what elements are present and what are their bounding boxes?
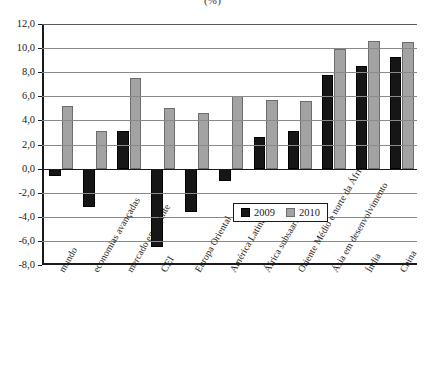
- bar-2010: [62, 106, 74, 169]
- y-axis-tick: [38, 241, 42, 242]
- gridline: [42, 145, 417, 146]
- y-axis-tick: [38, 193, 42, 194]
- chart-title: (%): [0, 0, 425, 6]
- legend-item-2010: 2010: [286, 207, 320, 218]
- x-axis-labels: mundoeconomias avançadasmercado emergent…: [42, 265, 417, 389]
- bar-2009: [254, 137, 266, 168]
- bar-2009: [117, 131, 129, 168]
- gridline: [42, 241, 417, 242]
- legend-label-2010: 2010: [299, 207, 320, 218]
- bar-2010: [164, 108, 176, 168]
- bar-2010: [368, 41, 380, 169]
- legend-swatch-icon-2009: [241, 208, 250, 217]
- bar-group: [44, 24, 78, 263]
- gridline: [42, 96, 417, 97]
- legend-label-2009: 2009: [254, 207, 275, 218]
- bar-2010: [96, 131, 108, 168]
- bar-2009: [185, 169, 197, 212]
- bar-chart: (%) 12,010,08,06,04,02,00,0-2,0-4,0-6,0-…: [0, 0, 425, 389]
- y-axis-tick-label: 8,0: [0, 66, 35, 77]
- bar-2010: [334, 49, 346, 168]
- bar-2010: [402, 42, 414, 169]
- bar-2009: [390, 57, 402, 169]
- legend-swatch-icon-2010: [286, 208, 295, 217]
- y-axis-tick: [38, 169, 42, 170]
- bar-2010: [232, 96, 244, 168]
- bar-2009: [83, 169, 95, 208]
- gridline: [42, 48, 417, 49]
- chart-legend: 2009 2010: [233, 203, 328, 222]
- bar-group: [385, 24, 419, 263]
- gridline: [42, 24, 417, 25]
- y-axis-tick: [38, 120, 42, 121]
- bar-2009: [219, 169, 231, 181]
- bar-2010: [300, 101, 312, 168]
- y-axis-tick: [38, 96, 42, 97]
- bar-2010: [266, 100, 278, 169]
- bar-2009: [356, 66, 368, 168]
- bar-2009: [322, 75, 334, 169]
- y-axis-tick-label: -2,0: [0, 187, 35, 198]
- y-axis-tick-label: 10,0: [0, 42, 35, 53]
- y-axis-tick: [38, 145, 42, 146]
- y-axis-tick-label: -6,0: [0, 235, 35, 246]
- bar-2010: [130, 78, 142, 168]
- gridline: [42, 193, 417, 194]
- y-axis-tick-label: 4,0: [0, 114, 35, 125]
- y-axis-tick-label: 0,0: [0, 163, 35, 174]
- y-axis-tick-label: -4,0: [0, 211, 35, 222]
- y-axis-tick-label: -8,0: [0, 259, 35, 270]
- y-axis-tick: [38, 217, 42, 218]
- bar-2010: [198, 113, 210, 168]
- gridline: [42, 120, 417, 121]
- y-axis-tick: [38, 72, 42, 73]
- bar-2009: [288, 131, 300, 168]
- y-axis-tick-label: 12,0: [0, 18, 35, 29]
- bar-group: [78, 24, 112, 263]
- bar-2009: [49, 169, 61, 176]
- y-axis-tick-label: 2,0: [0, 139, 35, 150]
- y-axis-tick: [38, 48, 42, 49]
- bar-group: [180, 24, 214, 263]
- y-axis-tick-label: 6,0: [0, 90, 35, 101]
- y-axis-tick: [38, 24, 42, 25]
- gridline: [42, 72, 417, 73]
- legend-item-2009: 2009: [241, 207, 275, 218]
